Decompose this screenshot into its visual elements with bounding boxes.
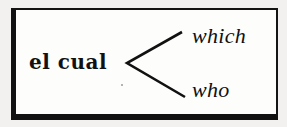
scan-speck (121, 84, 123, 86)
translation-which: which (192, 25, 246, 47)
translation-who: who (192, 79, 230, 101)
source-term-el-cual: el cual (29, 52, 107, 72)
diagram-root: el cual which who (0, 0, 287, 127)
